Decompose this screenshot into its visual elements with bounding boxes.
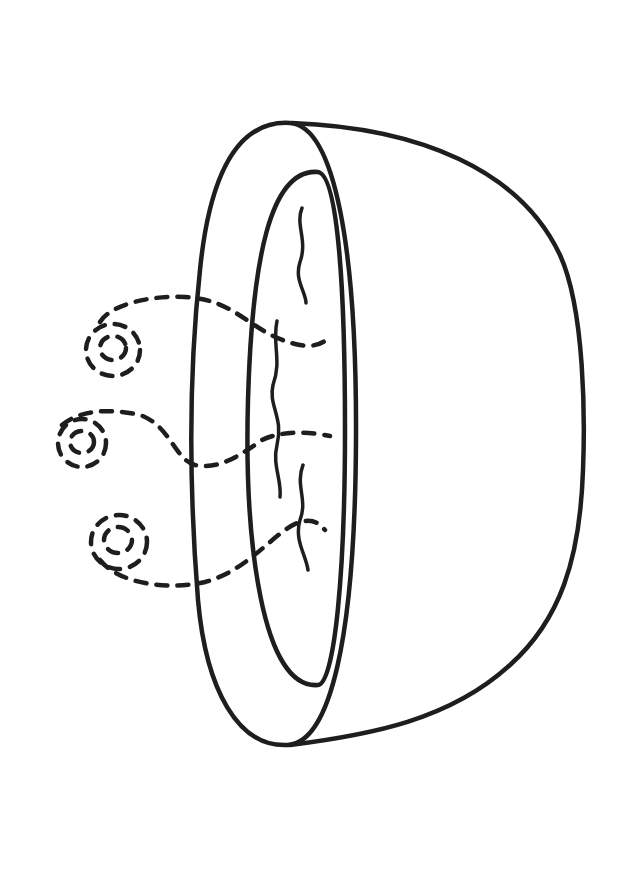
steam-swirl-bottom [91,515,325,586]
steam-path [62,411,330,466]
steam-coil-outer [91,515,147,569]
bowl-inner-rim [247,172,345,685]
steam-coil-inner [104,527,132,553]
steam-coil-outer [58,419,106,467]
soup-ripples [272,208,308,570]
ripple-top [298,208,306,303]
steam-swirl-middle [58,411,330,467]
steam-path [100,297,328,346]
steam-swirl-top [86,297,328,376]
ripple-middle [272,321,280,497]
steam-path [100,521,325,586]
steam-coil-outer [86,324,140,376]
steam-coil-inner [100,336,126,360]
steam-coil-inner [70,431,94,453]
soup-bowl-drawing [0,0,636,869]
ripple-bottom [298,465,308,570]
